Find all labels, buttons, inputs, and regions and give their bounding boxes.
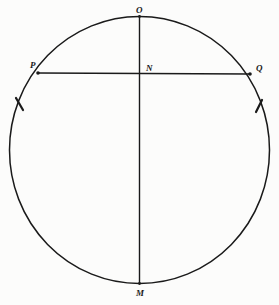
point-label-N: N bbox=[146, 64, 153, 73]
point-label-Q: Q bbox=[256, 64, 263, 73]
point-label-M: M bbox=[136, 289, 144, 298]
point-dot-O bbox=[138, 15, 141, 18]
point-dot-Q bbox=[248, 72, 252, 76]
horizontal-chord-PQ bbox=[38, 73, 250, 74]
geometry-canvas bbox=[0, 0, 279, 305]
geometry-figure: O P N Q M bbox=[0, 0, 279, 305]
point-label-O: O bbox=[136, 6, 143, 15]
point-label-P: P bbox=[30, 61, 36, 70]
tick-right-arc bbox=[256, 100, 262, 112]
point-dot-P bbox=[36, 71, 40, 75]
point-dot-M bbox=[138, 282, 141, 285]
